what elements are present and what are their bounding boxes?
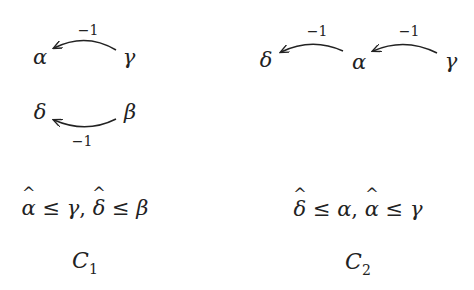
edge-c2-alpha-delta	[281, 44, 343, 52]
hat-symbol: δ^	[93, 198, 106, 219]
edge-c1-gamma-alpha	[54, 40, 116, 50]
edge-weight-label: −1	[307, 24, 328, 38]
node-alpha: α	[352, 52, 366, 73]
leq-sign: ≤	[112, 196, 130, 220]
edge-c2-gamma-alpha	[373, 44, 437, 53]
constraint-formula: α^ ≤ γ, δ^ ≤ β	[22, 198, 149, 219]
constraint-formula: δ^ ≤ α, α^ ≤ γ	[294, 199, 423, 220]
hat-symbol: δ^	[294, 199, 307, 220]
node-beta: β	[124, 102, 136, 123]
hat-symbol: α^	[22, 198, 36, 219]
edge-weight-label: −1	[399, 24, 420, 38]
node-delta: δ	[260, 50, 273, 71]
caption-c1: C1	[72, 250, 98, 275]
node-gamma: γ	[445, 51, 458, 72]
leq-sign: ≤	[386, 197, 404, 221]
leq-sign: ≤	[313, 197, 331, 221]
node-delta: δ	[34, 102, 47, 123]
node-alpha: α	[33, 47, 47, 68]
edge-c1-beta-delta	[54, 119, 116, 127]
edge-weight-label: −1	[78, 23, 99, 37]
edge-weight-label: −1	[72, 134, 93, 148]
hat-symbol: α^	[365, 199, 379, 220]
leq-sign: ≤	[42, 196, 60, 220]
node-gamma: γ	[123, 47, 136, 68]
caption-c2: C2	[345, 251, 371, 276]
